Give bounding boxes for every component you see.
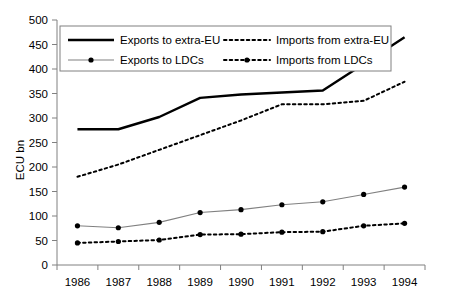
y-tick-label: 500 (29, 14, 48, 26)
y-axis-tick-labels: 050100150200250300350400450500 (29, 14, 48, 271)
y-tick-label: 0 (42, 259, 48, 271)
data-point-marker (361, 192, 366, 197)
data-point-marker (238, 207, 243, 212)
x-tick-label: 1990 (228, 276, 254, 288)
y-tick-label: 150 (29, 186, 48, 198)
y-axis-title: ECU bn (14, 140, 26, 180)
chart-container: 050100150200250300350400450500 198619871… (0, 0, 451, 301)
data-point-marker (320, 229, 325, 234)
legend-label-imports-ldcs: Imports from LDCs (276, 54, 373, 66)
data-point-marker (402, 221, 407, 226)
legend-label-exports-ldcs: Exports to LDCs (120, 54, 204, 66)
data-point-marker (320, 199, 325, 204)
y-tick-label: 100 (29, 210, 48, 222)
legend-label-imports-extra-eu: Imports from extra-EU (276, 34, 389, 46)
y-axis (52, 20, 57, 265)
x-tick-label: 1986 (65, 276, 91, 288)
y-tick-label: 350 (29, 88, 48, 100)
x-tick-label: 1989 (187, 276, 213, 288)
legend-marker-imports-ldcs (244, 57, 249, 62)
legend-label-exports-extra-eu: Exports to extra-EU (120, 34, 220, 46)
x-tick-label: 1991 (269, 276, 295, 288)
line-chart: 050100150200250300350400450500 198619871… (0, 0, 451, 301)
data-point-marker (116, 239, 121, 244)
chart-legend: Exports to extra-EUImports from extra-EU… (60, 26, 391, 71)
x-axis (57, 265, 425, 270)
x-tick-label: 1987 (106, 276, 132, 288)
data-point-marker (238, 232, 243, 237)
data-point-marker (157, 237, 162, 242)
x-tick-label: 1993 (351, 276, 377, 288)
y-tick-label: 450 (29, 39, 48, 51)
data-point-marker (361, 223, 366, 228)
y-tick-label: 400 (29, 63, 48, 75)
data-point-marker (402, 184, 407, 189)
y-tick-label: 250 (29, 137, 48, 149)
y-tick-label: 50 (35, 235, 48, 247)
legend-marker-exports-ldcs (88, 57, 93, 62)
data-point-marker (198, 232, 203, 237)
x-tick-label: 1988 (146, 276, 172, 288)
y-tick-label: 300 (29, 112, 48, 124)
data-point-marker (198, 210, 203, 215)
x-axis-tick-labels: 198619871988198919901991199219931994 (65, 276, 418, 288)
data-point-marker (279, 202, 284, 207)
data-point-marker (157, 220, 162, 225)
data-point-marker (75, 240, 80, 245)
x-tick-label: 1992 (310, 276, 336, 288)
y-tick-label: 200 (29, 161, 48, 173)
data-point-marker (75, 223, 80, 228)
data-point-marker (279, 230, 284, 235)
data-point-marker (116, 225, 121, 230)
x-tick-label: 1994 (392, 276, 418, 288)
